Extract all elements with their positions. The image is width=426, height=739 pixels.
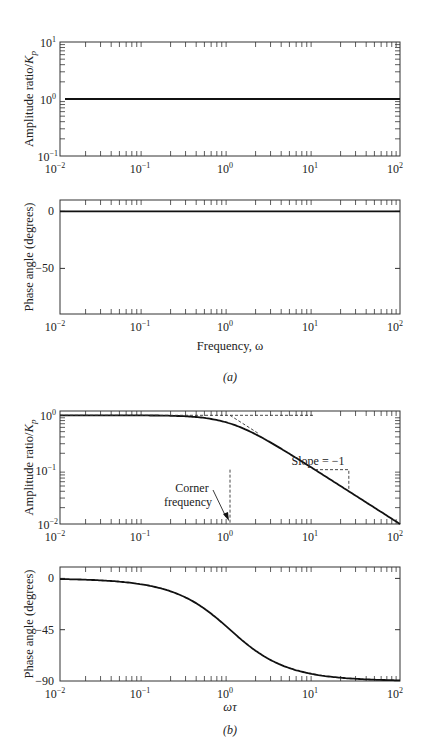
arrow-icon xyxy=(213,490,226,517)
panel-label-b: (b) xyxy=(223,723,237,737)
y-axis-label: Amplitude ratio/Kp xyxy=(22,51,38,147)
x-tick-label: 102 xyxy=(387,161,403,176)
chart-b-amplitude: 10−210−110010110210010−110−2Slope = −1Co… xyxy=(35,408,403,544)
chart-a-amplitude: 10−210−110010110210110010−1 xyxy=(37,35,403,176)
annotation-corner: Corner xyxy=(175,481,208,495)
y-tick-label: 101 xyxy=(40,35,56,50)
x-tick-label: 102 xyxy=(387,319,403,334)
x-tick-label: 10−1 xyxy=(130,161,151,176)
bode-figure: 10−210−110010110210110010−1Amplitude rat… xyxy=(0,0,426,739)
panel-label-a: (a) xyxy=(223,370,237,384)
x-tick-label: 10−2 xyxy=(45,319,66,334)
x-tick-label: 100 xyxy=(217,161,233,176)
annotation-corner: frequency xyxy=(164,495,212,509)
series-curve xyxy=(60,415,400,524)
x-axis-label: Frequency, ω xyxy=(197,339,263,353)
x-tick-label: 101 xyxy=(302,529,318,544)
y-tick-label: −50 xyxy=(35,261,54,275)
y-axis-label: Phase angle (degrees) xyxy=(22,203,36,312)
x-tick-label: 100 xyxy=(217,686,233,701)
y-tick-label: 10−1 xyxy=(35,463,56,478)
x-tick-label: 100 xyxy=(217,319,233,334)
y-tick-label: −45 xyxy=(35,623,54,637)
y-tick-label: 100 xyxy=(40,408,56,423)
x-tick-label: 102 xyxy=(387,529,403,544)
x-tick-label: 101 xyxy=(302,686,318,701)
annotation-slope: Slope = −1 xyxy=(292,454,345,468)
chart-b-phase: 10−210−11001011020−45−90 xyxy=(35,567,403,701)
y-axis-label: Amplitude ratio/Kp xyxy=(22,419,38,515)
x-axis-label: ωτ xyxy=(223,700,237,714)
y-axis-label: Phase angle (degrees) xyxy=(22,570,36,679)
x-tick-label: 10−2 xyxy=(45,686,66,701)
y-tick-label: 0 xyxy=(48,571,54,585)
x-tick-label: 102 xyxy=(387,686,403,701)
x-tick-label: 100 xyxy=(217,529,233,544)
x-tick-label: 10−1 xyxy=(130,319,151,334)
y-tick-label: 0 xyxy=(48,204,54,218)
y-tick-label: 100 xyxy=(40,92,56,107)
x-tick-label: 101 xyxy=(302,161,318,176)
y-tick-label: −90 xyxy=(35,674,54,688)
x-tick-label: 10−1 xyxy=(130,686,151,701)
x-tick-label: 10−1 xyxy=(130,529,151,544)
chart-a-phase: 10−210−11001011020−50 xyxy=(35,200,403,334)
series-curve xyxy=(60,579,400,680)
x-tick-label: 101 xyxy=(302,319,318,334)
